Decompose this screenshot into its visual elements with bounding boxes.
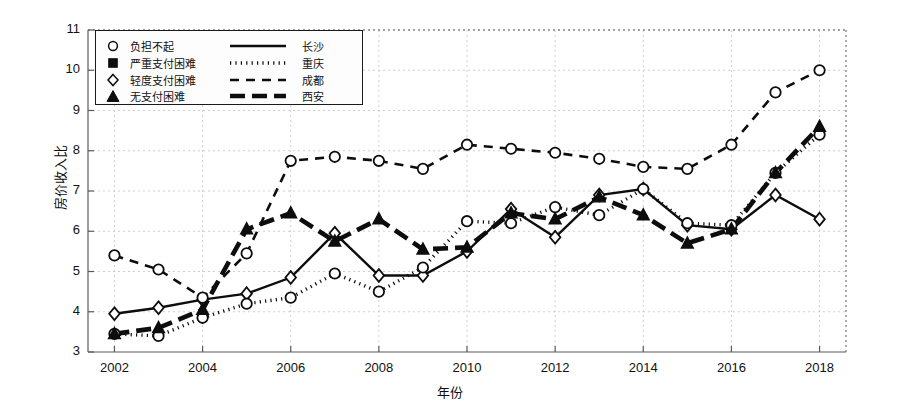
legend-marker-label: 负担不起 — [130, 38, 226, 54]
data-point-重庆 — [418, 262, 428, 272]
x-tick-label: 2012 — [525, 360, 585, 375]
x-tick-label: 2006 — [261, 360, 321, 375]
data-point-成都 — [506, 144, 516, 154]
legend-row: 无支付困难西安 — [96, 87, 364, 104]
data-point-重庆 — [330, 268, 340, 278]
x-tick-label: 2018 — [790, 360, 850, 375]
x-tick-label: 2008 — [349, 360, 409, 375]
data-point-重庆 — [550, 202, 560, 212]
y-tick-label: 9 — [52, 102, 80, 117]
legend-city-label: 重庆 — [302, 55, 324, 71]
y-tick-label: 3 — [52, 343, 80, 358]
legend-marker-square-filled-icon — [96, 55, 130, 71]
legend-city-label: 成都 — [302, 72, 324, 88]
x-tick-label: 2002 — [84, 360, 144, 375]
data-point-成都 — [418, 164, 428, 174]
legend-line-sample-dotted — [226, 56, 302, 70]
y-tick-label: 4 — [52, 303, 80, 318]
legend-city-label: 长沙 — [302, 38, 324, 54]
data-point-重庆 — [506, 218, 516, 228]
y-tick-label: 10 — [52, 61, 80, 76]
legend-row: 轻度支付困难成都 — [96, 71, 364, 88]
data-point-重庆 — [682, 218, 692, 228]
data-point-成都 — [462, 140, 472, 150]
data-point-成都 — [109, 250, 119, 260]
x-tick-label: 2010 — [437, 360, 497, 375]
data-point-重庆 — [286, 292, 296, 302]
x-tick-label: 2016 — [701, 360, 761, 375]
data-point-重庆 — [462, 216, 472, 226]
data-point-成都 — [682, 164, 692, 174]
chart-figure: 房价收入比 年份 34567891011 2002200420062008201… — [0, 0, 899, 417]
data-point-成都 — [241, 248, 251, 258]
data-point-成都 — [770, 87, 780, 97]
legend-marker-triangle-filled-icon — [96, 88, 130, 104]
legend-row: 严重支付困难重庆 — [96, 54, 364, 71]
data-point-成都 — [330, 152, 340, 162]
data-point-重庆 — [638, 184, 648, 194]
chart-legend: 负担不起长沙严重支付困难重庆轻度支付困难成都无支付困难西安 — [95, 30, 363, 105]
data-point-成都 — [726, 140, 736, 150]
legend-marker-label: 严重支付困难 — [130, 55, 226, 71]
data-point-成都 — [286, 156, 296, 166]
legend-marker-diamond-open-icon — [96, 72, 130, 88]
data-point-重庆 — [374, 286, 384, 296]
legend-marker-label: 轻度支付困难 — [130, 72, 226, 88]
y-tick-label: 7 — [52, 182, 80, 197]
data-point-成都 — [638, 162, 648, 172]
y-tick-label: 11 — [52, 21, 80, 36]
data-point-成都 — [594, 154, 604, 164]
data-point-重庆 — [594, 210, 604, 220]
x-axis-label: 年份 — [0, 382, 899, 401]
data-point-成都 — [153, 264, 163, 274]
data-point-成都 — [197, 292, 207, 302]
y-tick-label: 5 — [52, 263, 80, 278]
legend-city-label: 西安 — [302, 88, 324, 104]
data-point-重庆 — [241, 299, 251, 309]
x-tick-label: 2004 — [173, 360, 233, 375]
data-point-成都 — [550, 148, 560, 158]
y-tick-label: 8 — [52, 142, 80, 157]
legend-marker-label: 无支付困难 — [130, 88, 226, 104]
y-tick-label: 6 — [52, 222, 80, 237]
legend-row: 负担不起长沙 — [96, 37, 364, 54]
legend-line-sample-thick-dash — [226, 89, 302, 103]
legend-line-sample-dashed — [226, 73, 302, 87]
x-tick-label: 2014 — [613, 360, 673, 375]
legend-line-sample-solid — [226, 39, 302, 53]
data-point-成都 — [374, 156, 384, 166]
legend-marker-circle-open-icon — [96, 38, 130, 54]
data-point-成都 — [814, 65, 824, 75]
